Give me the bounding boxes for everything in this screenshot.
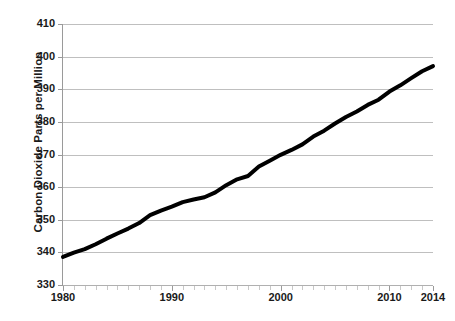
x-tick-mark-2011	[400, 286, 401, 290]
gridline-380	[63, 122, 433, 123]
y-tick-mark-400	[58, 57, 63, 58]
gridline-370	[63, 155, 433, 156]
x-tick-label-2014: 2014	[403, 291, 455, 303]
gridline-390	[63, 89, 433, 90]
x-tick-mark-2012	[411, 286, 412, 290]
x-tick-mark-1998	[259, 286, 260, 290]
x-tick-mark-1983	[96, 286, 97, 290]
y-tick-label-400: 400	[11, 50, 55, 62]
x-tick-mark-1987	[139, 286, 140, 290]
x-tick-mark-1999	[270, 286, 271, 290]
y-tick-mark-410	[58, 24, 63, 25]
plot-area	[63, 24, 433, 285]
y-tick-mark-340	[58, 252, 63, 253]
x-tick-mark-1984	[107, 286, 108, 290]
y-tick-label-330: 330	[11, 278, 55, 290]
x-tick-label-2000: 2000	[251, 291, 311, 303]
x-tick-mark-1997	[248, 286, 249, 290]
co2-line-chart: Carbon Dioxide Parts per Million 3303403…	[0, 0, 455, 321]
y-tick-label-350: 350	[11, 213, 55, 225]
y-tick-label-380: 380	[11, 115, 55, 127]
x-tick-mark-2008	[368, 286, 369, 290]
x-tick-mark-2007	[357, 286, 358, 290]
x-tick-label-1980: 1980	[33, 291, 93, 303]
x-tick-mark-2004	[324, 286, 325, 290]
x-tick-mark-2002	[302, 286, 303, 290]
y-tick-mark-370	[58, 155, 63, 156]
y-tick-mark-350	[58, 220, 63, 221]
x-tick-mark-1993	[204, 286, 205, 290]
gridline-400	[63, 57, 433, 58]
y-tick-label-340: 340	[11, 245, 55, 257]
x-tick-mark-1995	[226, 286, 227, 290]
x-tick-mark-1981	[74, 286, 75, 290]
x-tick-mark-2001	[292, 286, 293, 290]
x-tick-mark-2005	[335, 286, 336, 290]
y-tick-mark-360	[58, 187, 63, 188]
x-tick-mark-1996	[237, 286, 238, 290]
y-tick-label-390: 390	[11, 82, 55, 94]
y-tick-mark-390	[58, 89, 63, 90]
x-tick-mark-1986	[128, 286, 129, 290]
x-tick-mark-1988	[150, 286, 151, 290]
gridline-410	[63, 24, 433, 25]
x-tick-mark-1989	[161, 286, 162, 290]
y-tick-label-370: 370	[11, 148, 55, 160]
x-tick-label-1990: 1990	[142, 291, 202, 303]
y-tick-mark-380	[58, 122, 63, 123]
x-tick-mark-2013	[422, 286, 423, 290]
x-tick-mark-2006	[346, 286, 347, 290]
x-tick-mark-2003	[313, 286, 314, 290]
x-tick-mark-1992	[194, 286, 195, 290]
x-tick-mark-2009	[379, 286, 380, 290]
x-tick-mark-1994	[215, 286, 216, 290]
y-tick-label-410: 410	[11, 17, 55, 29]
gridline-350	[63, 220, 433, 221]
x-tick-mark-1991	[183, 286, 184, 290]
x-tick-mark-1982	[85, 286, 86, 290]
y-tick-label-360: 360	[11, 180, 55, 192]
x-tick-mark-1985	[117, 286, 118, 290]
gridline-340	[63, 252, 433, 253]
gridline-360	[63, 187, 433, 188]
